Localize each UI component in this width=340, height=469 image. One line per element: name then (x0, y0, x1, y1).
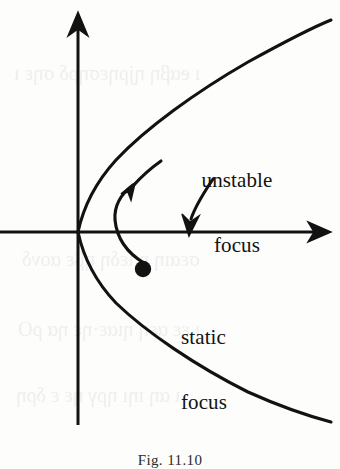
static-focus-dot (135, 261, 151, 277)
figure-container: ı eαβη ηjρηεσηρδ σηε ı σεαıη η ιεδη ηβε … (0, 0, 340, 469)
figure-caption: Fig. 11.10 (0, 452, 340, 469)
annotation-unstable-focus: unstable focus (185, 126, 289, 301)
annotation-static-focus: static focus (181, 283, 291, 458)
annotation-static-focus-line1: static (181, 327, 291, 349)
annotation-static-focus-line2: focus (181, 392, 291, 414)
annotation-unstable-focus-line2: focus (185, 235, 289, 257)
trajectory-arrow (115, 161, 161, 277)
annotation-unstable-focus-line1: unstable (185, 170, 289, 192)
trajectory-tail (133, 161, 161, 186)
